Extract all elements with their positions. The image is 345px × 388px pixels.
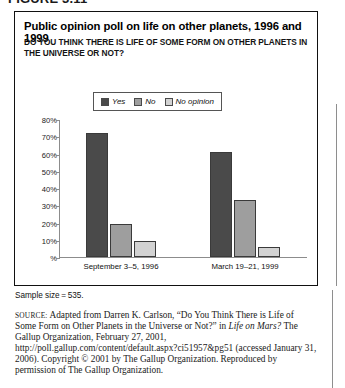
legend-label-no: No [145,97,155,106]
legend-label-yes: Yes [112,97,125,106]
x-axis-line [59,257,307,258]
y-axis-tick-label: 60% [42,150,57,159]
bar-no-opinion-1 [134,241,156,257]
source-title-italic: Life on Mars? [229,321,282,331]
y-axis-tick-label: 10% [42,236,57,245]
bar-no-1 [110,224,132,257]
bar-no-opinion-2 [258,247,280,257]
y-axis-tick-label: 70% [42,133,57,142]
bar-no-2 [234,200,256,257]
chart-question: DO YOU THINK THERE IS LIFE OF SOME FORM … [24,37,308,58]
sample-size-note: Sample size = 535. [15,291,84,300]
y-axis-tick [56,172,60,173]
y-axis-tick-label: 80% [42,116,57,125]
bar-yes-2 [210,152,232,257]
y-axis-tick [56,206,60,207]
y-axis-tick-label: 30% [42,202,57,211]
y-axis-tick-label: 20% [42,219,57,228]
plot-area [59,120,309,258]
legend-item-no: No [134,97,155,106]
y-axis-tick [56,137,60,138]
legend-label-no-opinion: No opinion [176,97,214,106]
figure-label: FIGURE 3.11 [8,0,88,6]
y-axis-tick-label: 50% [42,167,57,176]
bar-chart-plot: %10%20%30%40%50%60%70%80% September 3–5,… [31,120,309,280]
source-note: SOURCE: Adapted from Darren K. Carlson, … [15,310,317,377]
y-axis-tick [56,189,60,190]
y-axis-tick [56,258,60,259]
y-axis-labels: %10%20%30%40%50%60%70%80% [31,120,57,258]
y-axis-tick [56,224,60,225]
x-axis-category-label: September 3–5, 1996 [84,262,159,271]
legend-swatch-yes [101,98,109,106]
y-axis-tick [56,120,60,121]
y-axis-tick [56,241,60,242]
x-axis-labels: September 3–5, 1996March 19–21, 1999 [59,262,309,276]
figure-box: Public opinion poll on life on other pla… [14,11,318,286]
chart-legend: Yes No No opinion [93,92,222,111]
legend-item-yes: Yes [101,97,125,106]
page-edge-artifact-top-right [336,104,337,286]
legend-swatch-no [134,98,142,106]
legend-item-no-opinion: No opinion [165,97,214,106]
x-axis-category-label: March 19–21, 1999 [211,262,278,271]
legend-swatch-no-opinion [165,98,173,106]
page-edge-artifact-right [332,290,333,388]
source-label: SOURCE: [15,311,48,320]
bar-yes-1 [86,133,108,257]
y-axis-tick [56,155,60,156]
y-axis-tick-label: 40% [42,185,57,194]
